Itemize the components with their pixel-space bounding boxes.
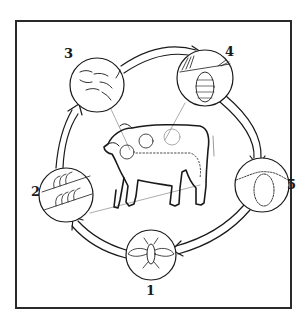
connector-4: [165, 103, 185, 140]
cycle-arrow-5-to-1: [172, 205, 250, 256]
cycle-arrow-1-to-2: [72, 217, 126, 258]
artist-signature: [213, 136, 214, 156]
stage-label-1: 1: [146, 284, 155, 297]
cow-inset-side: [120, 145, 134, 159]
stage-label-4: 4: [225, 45, 234, 58]
migration-path: [136, 153, 201, 178]
life-cycle-diagram: [0, 0, 300, 321]
stage-1-circle: [126, 230, 176, 280]
stage-label-5: 5: [287, 178, 296, 191]
stage-2-circle: [39, 168, 93, 222]
stage-label-2: 2: [31, 185, 40, 198]
connector-2: [90, 185, 200, 213]
cow-illustration: [104, 124, 209, 208]
cycle-arrow-2-to-3: [56, 104, 82, 168]
cow-inset-back: [139, 134, 153, 148]
stage-3-circle: [70, 58, 124, 112]
stage-5-circle: [235, 158, 289, 212]
cycle-arrow-4-to-5: [220, 96, 265, 166]
stage-label-3: 3: [64, 47, 73, 60]
